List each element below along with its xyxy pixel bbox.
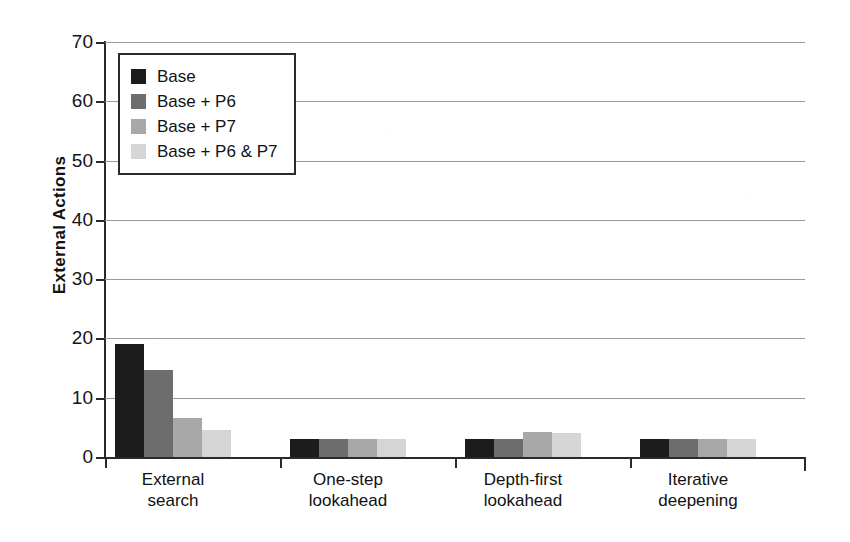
bar	[523, 432, 552, 457]
bar	[290, 439, 319, 457]
legend-item: Base + P6	[131, 89, 278, 114]
bar	[173, 418, 202, 457]
y-axis-tick-label: 40	[33, 209, 93, 231]
y-axis-tick-label: 60	[33, 90, 93, 112]
y-axis-tick-label: 30	[33, 268, 93, 290]
bar	[552, 433, 581, 457]
legend-swatch-icon	[131, 144, 146, 159]
legend-item: Base	[131, 64, 278, 89]
gridline	[105, 338, 805, 339]
gridline	[105, 398, 805, 399]
x-axis-tick	[630, 457, 632, 468]
legend-item: Base + P6 & P7	[131, 139, 278, 164]
x-axis-tick	[455, 457, 457, 468]
bar	[494, 439, 523, 457]
chart-legend: BaseBase + P6Base + P7Base + P6 & P7	[118, 53, 296, 175]
x-axis-tick-label: Externalsearch	[73, 470, 273, 511]
bar-chart-figure: External Actions 010203040506070 Externa…	[0, 0, 850, 542]
x-axis-label-line: search	[73, 491, 273, 512]
y-axis-tick-label: 50	[33, 150, 93, 172]
bar	[115, 344, 144, 457]
legend-item-label: Base	[157, 67, 196, 87]
gridline	[105, 279, 805, 280]
x-axis-tick-label: Depth-firstlookahead	[423, 470, 623, 511]
x-axis-label-line: Iterative	[598, 470, 798, 491]
y-axis-tick-label: 70	[33, 31, 93, 53]
y-axis-tick-label: 0	[33, 446, 93, 468]
bar	[144, 370, 173, 457]
bar	[377, 439, 406, 457]
legend-item: Base + P7	[131, 114, 278, 139]
bar	[669, 439, 698, 457]
legend-swatch-icon	[131, 69, 146, 84]
x-axis-tick-label: One-steplookahead	[248, 470, 448, 511]
x-axis-tick	[280, 457, 282, 468]
bar	[348, 439, 377, 457]
bar	[727, 439, 756, 457]
gridline	[105, 220, 805, 221]
bar	[698, 439, 727, 457]
x-axis-label-line: deepening	[598, 491, 798, 512]
bar	[640, 439, 669, 457]
y-axis-tick-label: 20	[33, 327, 93, 349]
legend-swatch-icon	[131, 94, 146, 109]
x-axis-label-line: Depth-first	[423, 470, 623, 491]
gridline	[105, 42, 805, 43]
bar	[319, 439, 348, 457]
x-axis-label-line: lookahead	[248, 491, 448, 512]
x-axis-end-tick	[804, 457, 806, 471]
x-axis-tick-label: Iterativedeepening	[598, 470, 798, 511]
x-axis-tick	[105, 457, 107, 468]
x-axis-label-line: One-step	[248, 470, 448, 491]
legend-item-label: Base + P6	[157, 92, 236, 112]
legend-item-label: Base + P7	[157, 117, 236, 137]
y-axis-tick-label: 10	[33, 387, 93, 409]
bar	[465, 439, 494, 457]
legend-item-label: Base + P6 & P7	[157, 142, 278, 162]
bar	[202, 430, 231, 457]
x-axis-label-line: lookahead	[423, 491, 623, 512]
legend-swatch-icon	[131, 119, 146, 134]
x-axis-label-line: External	[73, 470, 273, 491]
